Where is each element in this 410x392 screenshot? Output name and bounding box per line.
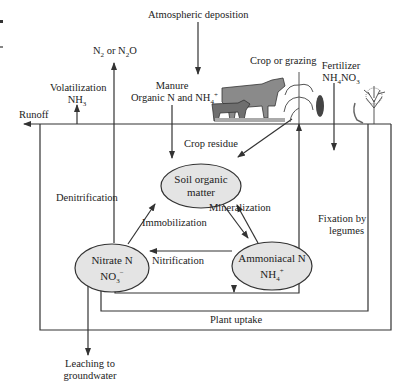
mineralization-label: Mineralization — [209, 202, 271, 214]
nitrate-text: Nitrate N NO3− — [75, 254, 149, 288]
tree-icon — [364, 86, 385, 124]
plant-uptake-label: Plant uptake — [210, 314, 262, 326]
corn-plant-icon — [284, 72, 313, 124]
legume-plant-icon — [354, 103, 363, 123]
atmospheric-deposition-label: Atmospheric deposition — [148, 9, 248, 21]
ammoniacal-text: Ammoniacal N NH4+ — [232, 252, 312, 286]
leaching-label: Leaching to groundwater — [62, 358, 118, 382]
corn-ear-icon — [316, 95, 324, 117]
crop-residue-label: Crop residue — [184, 138, 238, 150]
cows-icon — [212, 78, 285, 122]
edge-mark — [0, 20, 3, 23]
immobilization-label: Immobilization — [142, 217, 207, 229]
crop-or-grazing-label: Crop or grazing — [250, 55, 316, 67]
manure-label: Manure Organic N and NH4+ — [131, 80, 213, 104]
nitrification-label: Nitrification — [152, 255, 204, 267]
denitrification-label: Denitrification — [56, 192, 118, 204]
n2-or-n2o-label: N2 or N2O — [93, 45, 133, 57]
fixation-by-legumes-label: Fixation by legumes — [318, 213, 364, 237]
fertilizer-label: Fertilizer NH4NO3 — [316, 60, 366, 84]
soil-organic-matter-text: Soil organic matter — [161, 173, 241, 199]
crop-residue-arrow — [238, 119, 292, 157]
volatilization-label: Volatilization NH3 — [50, 82, 104, 106]
runoff-label: Runoff — [19, 109, 49, 121]
